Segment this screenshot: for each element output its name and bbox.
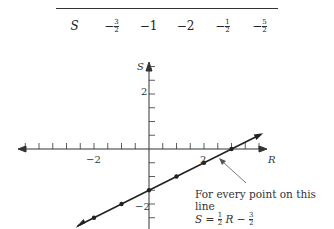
x-axis-right-arrow-icon [259, 146, 267, 152]
x-axis-left-arrow-icon [18, 146, 26, 152]
annotation-formula: S = 12 R − 32 [195, 212, 334, 227]
y-tick-label: −2 [135, 201, 150, 212]
annotation-text: For every point on this line [195, 188, 334, 212]
data-point [229, 147, 233, 151]
data-point [174, 174, 178, 178]
line-end-arrow-icon [254, 133, 263, 140]
x-axis-label: R [267, 154, 276, 165]
x-tick-label: −2 [86, 154, 101, 165]
annotation-pointer [223, 162, 246, 183]
line-annotation: For every point on this line S = 12 R − … [195, 188, 334, 227]
data-point [147, 188, 151, 192]
line-start-arrow-icon [76, 219, 86, 228]
y-tick-label: 2 [141, 86, 147, 97]
y-axis-label: S [137, 61, 144, 72]
x-tick-label: 2 [200, 154, 206, 165]
data-point [92, 216, 96, 220]
data-point [119, 202, 123, 206]
